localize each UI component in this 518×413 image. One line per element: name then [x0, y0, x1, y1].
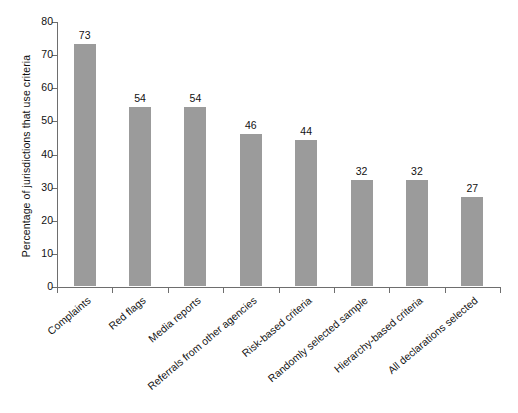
bar-value-label: 46: [231, 119, 271, 131]
bar-value-label: 54: [175, 92, 215, 104]
bar-value-label: 44: [286, 125, 326, 137]
y-tick-label: 70: [41, 48, 53, 60]
y-tick-label: 30: [41, 181, 53, 193]
bar: [295, 140, 317, 286]
bar-value-label: 73: [65, 29, 105, 41]
bar-value-label: 54: [120, 92, 160, 104]
bar: [461, 197, 483, 286]
x-tick-mark: [279, 288, 280, 293]
y-axis-line: [57, 22, 58, 288]
x-tick-mark: [112, 288, 113, 293]
y-axis-title: Percentage of jurisdictions that use cri…: [20, 26, 32, 286]
bar-value-label: 32: [397, 165, 437, 177]
plot-area: 01020304050607080 7354544644323227: [57, 22, 500, 287]
bar: [240, 134, 262, 286]
y-tick-label: 20: [41, 214, 53, 226]
bar: [184, 107, 206, 286]
bar-chart: Percentage of jurisdictions that use cri…: [0, 0, 518, 413]
x-tick-mark: [57, 288, 58, 293]
bar-value-label: 27: [452, 182, 492, 194]
x-tick-mark: [334, 288, 335, 293]
x-tick-mark: [500, 288, 501, 293]
y-tick-label: 40: [41, 148, 53, 160]
y-tick-label: 80: [41, 15, 53, 27]
bar: [406, 180, 428, 286]
y-tick-label: 0: [47, 280, 53, 292]
y-tick-label: 10: [41, 247, 53, 259]
bar: [74, 44, 96, 286]
bar: [129, 107, 151, 286]
x-tick-mark: [389, 288, 390, 293]
x-tick-mark: [223, 288, 224, 293]
bar: [351, 180, 373, 286]
y-tick-label: 60: [41, 81, 53, 93]
x-tick-mark: [168, 288, 169, 293]
bar-value-label: 32: [342, 165, 382, 177]
y-tick-label: 50: [41, 114, 53, 126]
x-tick-mark: [445, 288, 446, 293]
